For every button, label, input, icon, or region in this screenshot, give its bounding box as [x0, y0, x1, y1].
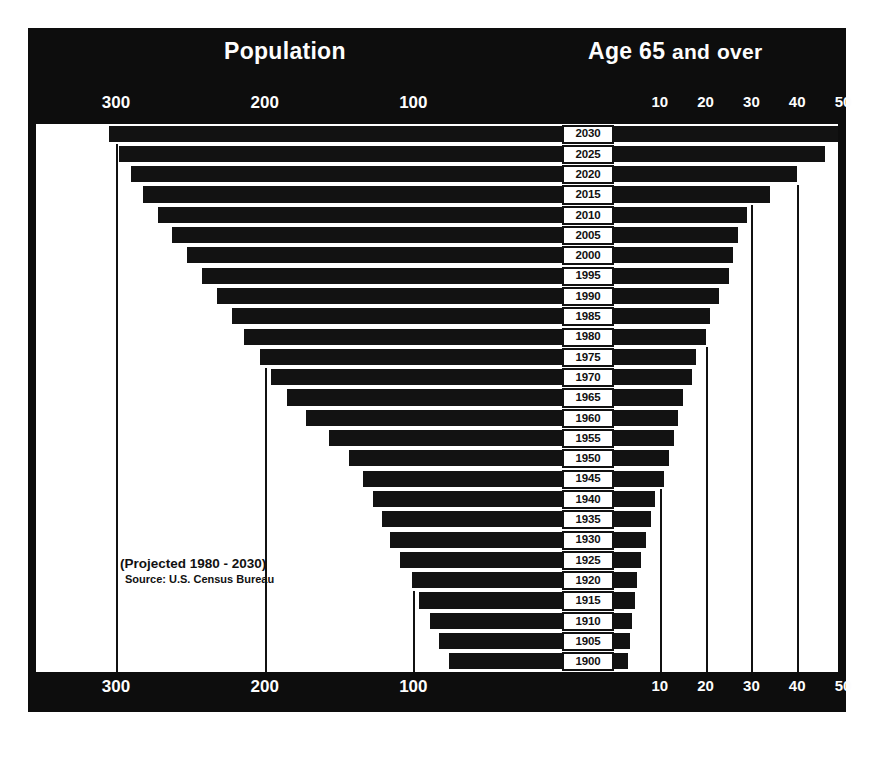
top-axis-left-tick-300: 300	[102, 93, 130, 113]
chart-header: Population Age 65 and over	[28, 28, 846, 90]
bottom-axis-labels: 3002001001020304050	[28, 672, 846, 700]
year-label-2030: 2030	[562, 125, 614, 144]
year-label-1995: 1995	[562, 267, 614, 286]
bar-row	[36, 633, 838, 649]
bar-row	[36, 308, 838, 324]
bar-row	[36, 207, 838, 223]
year-label-2025: 2025	[562, 145, 614, 164]
year-label-1900: 1900	[562, 652, 614, 671]
age65-bar	[614, 207, 747, 223]
population-bar	[244, 329, 562, 345]
gridline-right-20	[706, 347, 708, 672]
chart-annotation: (Projected 1980 - 2030)Source: U.S. Cens…	[120, 556, 274, 585]
population-bar	[172, 227, 562, 243]
population-bar	[373, 491, 562, 507]
population-bar	[109, 126, 562, 142]
age65-bar	[614, 166, 797, 182]
year-label-2000: 2000	[562, 246, 614, 265]
age65-bar	[614, 430, 674, 446]
age65-bar	[614, 491, 655, 507]
bar-row	[36, 511, 838, 527]
year-label-1940: 1940	[562, 490, 614, 509]
title-age-word: Age	[588, 38, 632, 64]
age65-bar	[614, 532, 646, 548]
bar-row	[36, 288, 838, 304]
age65-bar	[614, 450, 669, 466]
population-bar	[412, 572, 562, 588]
page-title-population: Population	[224, 38, 346, 65]
bar-row	[36, 410, 838, 426]
annotation-source: Source: U.S. Census Bureau	[120, 573, 274, 585]
age65-bar	[614, 511, 651, 527]
bottom-axis-left-tick-100: 100	[399, 677, 427, 697]
population-bar	[363, 471, 562, 487]
bar-row	[36, 247, 838, 263]
top-axis-right-tick-40: 40	[789, 93, 806, 110]
bottom-axis-right-tick-40: 40	[789, 677, 806, 694]
age65-bar	[614, 126, 838, 142]
population-bar	[306, 410, 562, 426]
bar-row	[36, 491, 838, 507]
year-label-1925: 1925	[562, 551, 614, 570]
top-axis-right-tick-20: 20	[697, 93, 714, 110]
gridline-right-10	[660, 489, 662, 672]
year-label-2015: 2015	[562, 185, 614, 204]
bottom-axis-right-tick-20: 20	[697, 677, 714, 694]
figure-frame: Population Age 65 and over 3002001001020…	[28, 28, 846, 712]
year-label-2005: 2005	[562, 226, 614, 245]
year-label-1990: 1990	[562, 287, 614, 306]
bottom-axis-right-tick-30: 30	[743, 677, 760, 694]
age65-bar	[614, 146, 825, 162]
bar-row	[36, 349, 838, 365]
population-bar	[349, 450, 562, 466]
age65-bar	[614, 268, 729, 284]
bar-row	[36, 450, 838, 466]
population-bar	[390, 532, 562, 548]
age65-bar	[614, 572, 637, 588]
bottom-axis-right-tick-50: 50	[835, 677, 852, 694]
population-bar	[217, 288, 562, 304]
plot-area: 2030202520202015201020052000199519901985…	[36, 124, 838, 672]
age65-bar	[614, 186, 770, 202]
age65-bar	[614, 552, 641, 568]
population-bar	[419, 592, 562, 608]
year-label-1930: 1930	[562, 531, 614, 550]
population-bar	[439, 633, 562, 649]
bar-row	[36, 126, 838, 142]
age65-bar	[614, 410, 678, 426]
population-bar	[260, 349, 562, 365]
age65-bar	[614, 613, 632, 629]
population-bar	[158, 207, 562, 223]
population-bar	[202, 268, 562, 284]
bar-row	[36, 613, 838, 629]
top-axis-left-tick-100: 100	[399, 93, 427, 113]
bar-row	[36, 653, 838, 669]
year-label-1985: 1985	[562, 307, 614, 326]
age65-bar	[614, 471, 664, 487]
top-axis-right-tick-10: 10	[651, 93, 668, 110]
population-bar	[232, 308, 562, 324]
top-axis-right-tick-30: 30	[743, 93, 760, 110]
population-bar	[131, 166, 562, 182]
year-label-1965: 1965	[562, 388, 614, 407]
year-label-1950: 1950	[562, 449, 614, 468]
bar-row	[36, 369, 838, 385]
bottom-axis-right-tick-10: 10	[651, 677, 668, 694]
age65-bar	[614, 369, 692, 385]
gridline-left-300	[116, 144, 118, 672]
gridline-left-200	[265, 368, 267, 672]
age65-bar	[614, 349, 696, 365]
year-label-1920: 1920	[562, 571, 614, 590]
bar-row	[36, 329, 838, 345]
title-age-number: 65	[639, 38, 665, 64]
title-over-word: over	[717, 40, 763, 63]
population-bar	[271, 369, 562, 385]
year-label-1970: 1970	[562, 368, 614, 387]
age65-bar	[614, 389, 683, 405]
population-bar	[400, 552, 562, 568]
age65-bar	[614, 308, 710, 324]
year-label-1955: 1955	[562, 429, 614, 448]
year-label-2020: 2020	[562, 165, 614, 184]
title-and-word: and	[672, 40, 710, 63]
bar-row	[36, 227, 838, 243]
